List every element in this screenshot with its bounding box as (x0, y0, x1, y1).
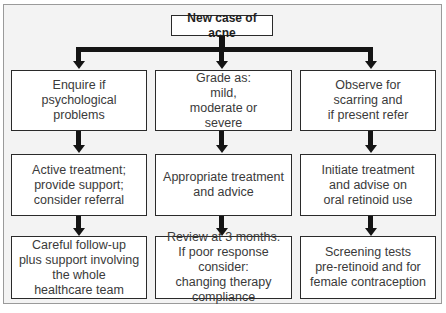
step-label: Initiate treatment and advise on oral re… (321, 163, 414, 208)
arrow-shaft (76, 131, 81, 145)
distribution-bar (76, 47, 373, 52)
step-label: Screening tests pre-retinoid and for fem… (310, 245, 426, 290)
col3-step1-observe-scarring: Observe for scarring and if present refe… (300, 70, 436, 131)
arrow-shaft (76, 216, 81, 228)
arrow-shaft (368, 216, 373, 228)
col3-step2-initiate-treatment: Initiate treatment and advise on oral re… (300, 154, 436, 216)
arrow-down-icon (216, 145, 228, 153)
arrow-shaft (219, 216, 224, 228)
col1-step2-active-treatment: Active treatment; provide support; consi… (11, 154, 147, 216)
arrow-down-icon (365, 61, 377, 69)
col1-step1-enquire-psychological: Enquire if psychological problems (11, 70, 147, 131)
step-label: Grade as: mild, moderate or severe (190, 71, 257, 131)
col2-step2-appropriate-treatment: Appropriate treatment and advice (155, 154, 292, 216)
arrow-shaft (368, 131, 373, 145)
arrow-down-icon (216, 61, 228, 69)
arrow-down-icon (73, 61, 85, 69)
arrow-down-icon (365, 228, 377, 236)
arrow-shaft-col3 (368, 47, 373, 61)
arrow-shaft-col1 (76, 47, 81, 61)
arrow-shaft (219, 131, 224, 145)
col2-step3-review-3-months: Review at 3 months. If poor response con… (155, 236, 292, 299)
col1-step3-careful-follow-up: Careful follow-up plus support involving… (11, 236, 147, 299)
step-label: Careful follow-up plus support involving… (19, 238, 139, 298)
step-label: Review at 3 months. If poor response con… (156, 230, 291, 305)
col2-step1-grade: Grade as: mild, moderate or severe (155, 70, 292, 131)
step-label: Enquire if psychological problems (41, 78, 116, 123)
arrow-down-icon (73, 145, 85, 153)
arrow-down-icon (73, 228, 85, 236)
arrow-down-icon (365, 145, 377, 153)
step-label: Observe for scarring and if present refe… (328, 78, 409, 123)
root-node-new-case-of-acne: New case of acne (171, 15, 273, 36)
col3-step3-screening-tests: Screening tests pre-retinoid and for fem… (300, 236, 436, 299)
step-label: Active treatment; provide support; consi… (32, 163, 126, 208)
arrow-shaft-col2 (219, 47, 224, 61)
step-label: Appropriate treatment and advice (163, 170, 284, 200)
